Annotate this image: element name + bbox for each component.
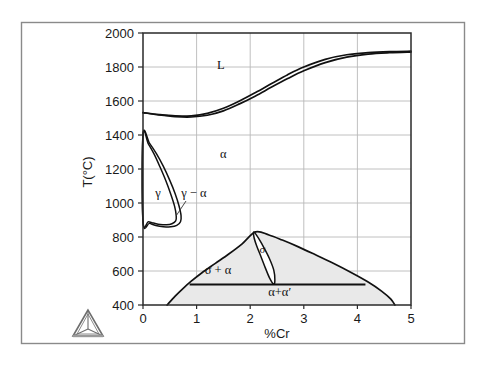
phase-diagram-figure: 012345400600800100012001400160018002000 …	[0, 0, 486, 369]
y-tick-label: 1600	[105, 94, 134, 109]
y-tick-label: 1200	[105, 162, 134, 177]
y-tick-label: 2000	[105, 26, 134, 41]
y-axis-title: T(°C)	[80, 156, 95, 187]
y-tick-label: 1400	[105, 128, 134, 143]
sigma-phase-label: σ	[260, 243, 266, 255]
y-tick-label: 1800	[105, 60, 134, 75]
phase-diagram-svg: 012345400600800100012001400160018002000 …	[0, 0, 486, 369]
y-tick-label: 800	[112, 230, 134, 245]
x-tick-label: 5	[407, 311, 414, 326]
gamma-alpha-phase-label: γ − α	[180, 186, 207, 200]
y-tick-label: 400	[112, 298, 134, 313]
x-axis-title: %Cr	[264, 326, 290, 341]
triangular-tetrahedron-logo	[73, 310, 103, 336]
x-tick-label: 3	[300, 311, 307, 326]
x-tick-label: 4	[354, 311, 361, 326]
x-tick-label: 1	[193, 311, 200, 326]
gamma-phase-label: γ	[154, 186, 161, 200]
y-tick-label: 600	[112, 264, 134, 279]
y-tick-label: 1000	[105, 196, 134, 211]
x-tick-label: 2	[247, 311, 254, 326]
liquid-phase-label: L	[217, 58, 225, 72]
x-tick-label: 0	[139, 311, 146, 326]
sigma-plus-alpha-label: σ + α	[205, 263, 232, 277]
alpha-phase-label: α	[220, 147, 227, 161]
alpha-plus-alpha-prime-label: α+α′	[268, 285, 291, 299]
